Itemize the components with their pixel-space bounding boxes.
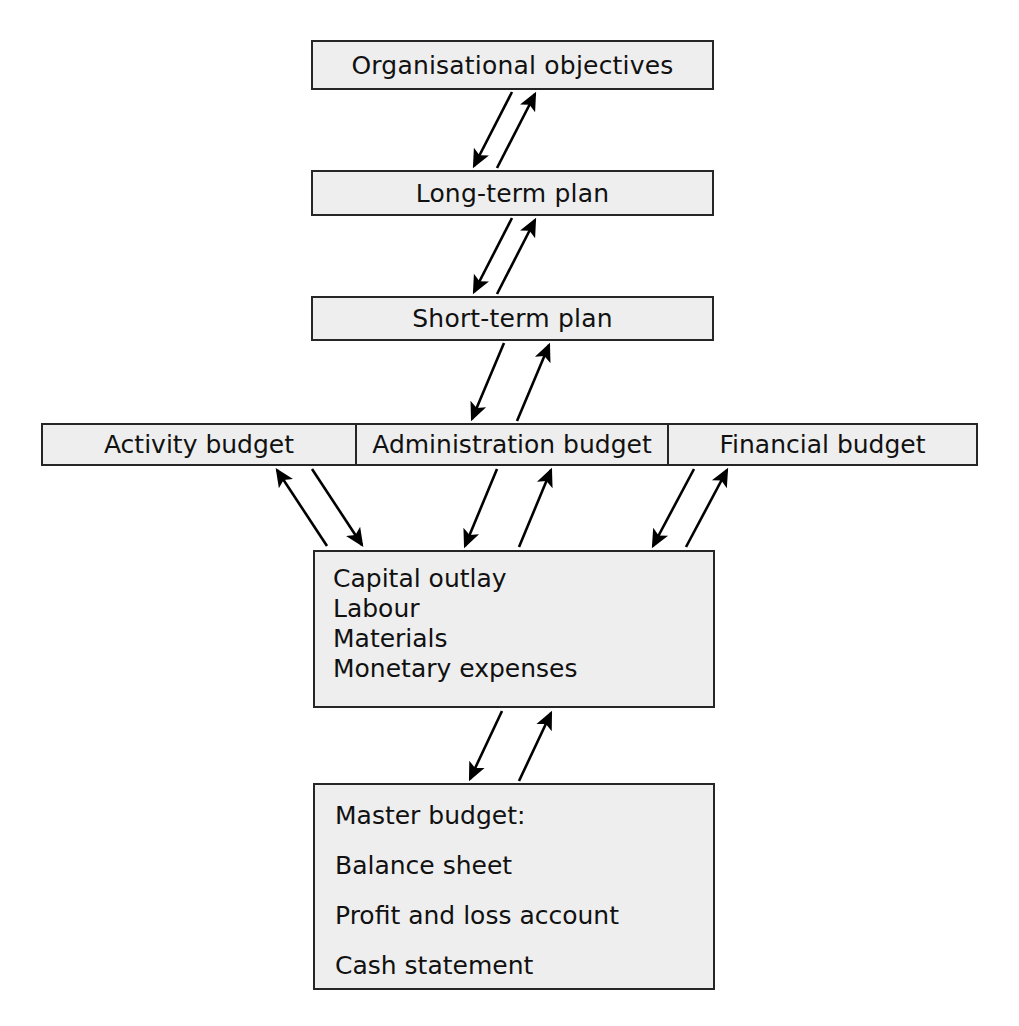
arrow-activity-budget-to-resources xyxy=(312,469,362,545)
master-budget-line-balance-sheet: Balance sheet xyxy=(335,853,695,878)
arrow-admin-budget-to-resources xyxy=(465,469,497,546)
arrow-resources-to-financial-budget xyxy=(686,470,727,547)
budget-row: Activity budget Administration budget Fi… xyxy=(41,423,978,466)
budget-flow-diagram: Organisational objectives Long-term plan… xyxy=(0,0,1019,1026)
master-budget-line-profit-and-loss: Profit and loss account xyxy=(335,903,695,928)
arrow-admin-budget-to-shortterm xyxy=(517,345,549,421)
node-long-term-plan[interactable]: Long-term plan xyxy=(311,170,714,216)
resources-line-labour: Labour xyxy=(333,596,695,621)
node-activity-budget[interactable]: Activity budget xyxy=(43,425,355,464)
node-administration-budget[interactable]: Administration budget xyxy=(355,425,669,464)
arrow-shortterm-to-longterm xyxy=(497,220,535,294)
node-organisational-objectives[interactable]: Organisational objectives xyxy=(311,40,714,90)
arrow-master-budget-to-resources xyxy=(519,713,551,781)
node-short-term-plan[interactable]: Short-term plan xyxy=(311,296,714,341)
arrow-financial-budget-to-resources xyxy=(653,469,694,546)
arrow-resources-to-admin-budget xyxy=(519,470,551,547)
arrow-resources-to-master-budget xyxy=(470,711,502,779)
arrow-longterm-to-shortterm xyxy=(474,218,512,292)
arrow-resources-to-activity-budget xyxy=(277,470,327,546)
resources-line-materials: Materials xyxy=(333,626,695,651)
node-label: Short-term plan xyxy=(412,304,612,333)
node-label: Activity budget xyxy=(104,430,294,459)
node-label: Administration budget xyxy=(372,430,652,459)
arrow-objectives-to-longterm xyxy=(474,92,512,166)
node-master-budget[interactable]: Master budget: Balance sheet Profit and … xyxy=(313,783,715,990)
resources-line-monetary-expenses: Monetary expenses xyxy=(333,656,695,681)
arrow-longterm-to-objectives xyxy=(497,94,535,168)
node-label: Long-term plan xyxy=(416,179,610,208)
node-label: Organisational objectives xyxy=(351,51,673,80)
master-budget-line-heading: Master budget: xyxy=(335,803,695,828)
resources-line-capital-outlay: Capital outlay xyxy=(333,566,695,591)
node-label: Financial budget xyxy=(719,430,925,459)
arrow-shortterm-to-admin-budget xyxy=(472,343,504,419)
master-budget-line-cash-statement: Cash statement xyxy=(335,953,695,978)
node-resources[interactable]: Capital outlay Labour Materials Monetary… xyxy=(313,550,715,708)
node-financial-budget[interactable]: Financial budget xyxy=(669,425,976,464)
